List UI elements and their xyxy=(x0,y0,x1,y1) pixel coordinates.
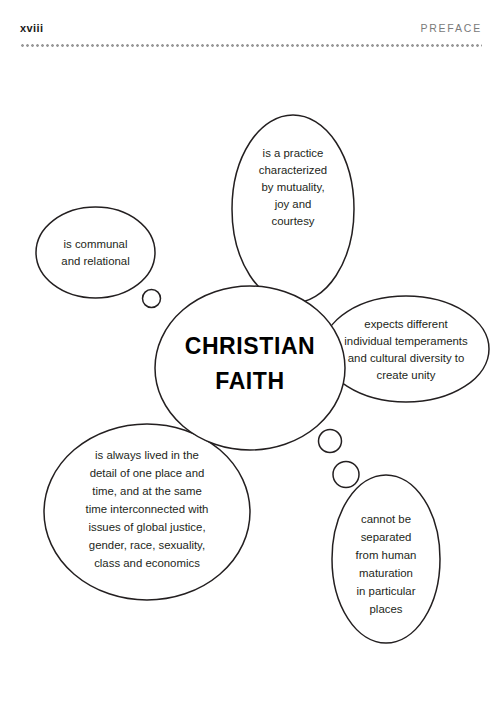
bubble-diversity-line-2: and cultural diversity to xyxy=(348,352,465,364)
bubble-located-line-5: gender, race, sexuality, xyxy=(89,539,205,551)
bubble-maturation-line-3: maturation xyxy=(359,567,413,579)
bubble-maturation-line-0: cannot be xyxy=(361,513,411,525)
bubble-practice-line-1: characterized xyxy=(259,164,327,176)
bubble-diversity-line-1: individual temperaments xyxy=(344,335,468,347)
bubble-maturation-line-1: separated xyxy=(361,531,412,543)
bubble-communal xyxy=(36,207,155,298)
folio-page-number: xviii xyxy=(20,22,43,34)
connector-circle-left xyxy=(143,290,161,308)
bubble-located-line-3: time interconnected with xyxy=(86,503,209,515)
page-header: xviii PREFACE xyxy=(0,0,502,56)
bubble-diversity xyxy=(323,296,489,402)
bubble-maturation-line-4: in particular xyxy=(357,585,416,597)
bubble-communal-line-1: and relational xyxy=(61,255,129,267)
bubble-practice-line-2: by mutuality, xyxy=(261,181,324,193)
dotted-rule-divider xyxy=(20,44,482,47)
center-label-line-0: CHRISTIAN xyxy=(185,333,316,359)
bubble-diversity-line-0: expects different xyxy=(364,318,448,330)
bubble-maturation-line-5: places xyxy=(370,603,403,615)
center-label-line-1: FAITH xyxy=(215,368,284,394)
concept-bubble-diagram: is a practice characterized by mutuality… xyxy=(0,56,502,701)
bubble-located-line-1: detail of one place and xyxy=(90,467,205,479)
bubble-located-line-4: issues of global justice, xyxy=(88,521,205,533)
bubble-diagram-container: is a practice characterized by mutuality… xyxy=(0,56,502,701)
bubble-located-line-6: class and economics xyxy=(94,557,200,569)
bubble-located-line-2: time, and at the same xyxy=(92,485,202,497)
bubble-located-line-0: is always lived in the xyxy=(95,449,199,461)
bubble-communal-line-0: is communal xyxy=(64,238,128,250)
bubble-diversity-line-3: create unity xyxy=(377,369,436,381)
connector-circle-lower xyxy=(333,462,359,488)
bubble-practice-line-4: courtesy xyxy=(271,215,314,227)
bubble-maturation-line-2: from human xyxy=(356,549,417,561)
bubble-practice-line-3: joy and xyxy=(274,198,312,210)
connector-circle-mid xyxy=(319,430,342,453)
bubble-practice-line-0: is a practice xyxy=(263,147,324,159)
running-title: PREFACE xyxy=(420,22,482,34)
